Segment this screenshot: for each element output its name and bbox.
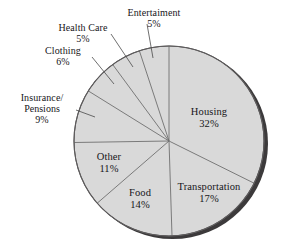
pie-chart-graphic [0,0,285,249]
pie-slices-group [74,46,264,236]
pie-chart-figure: Housing 32% Transportation 17% Food 14% … [0,0,285,249]
